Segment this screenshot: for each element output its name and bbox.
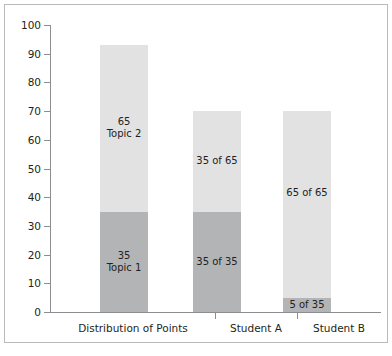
bar-segment-value-topic2: 65 (118, 116, 131, 127)
x-category-label-distribution-of-points: Distribution of Points (51, 322, 215, 334)
y-tick-label-10: 10 (1, 278, 41, 288)
y-tick-label-50: 50 (1, 164, 41, 174)
bar-segment-label-student-a-topic2: 35 of 65 (171, 155, 263, 167)
bar-segment-label-topic2: 65 Topic 2 (78, 116, 170, 140)
y-tick-10 (44, 283, 50, 284)
y-tick-label-0: 0 (1, 307, 41, 317)
x-category-label-student-b: Student B (297, 322, 381, 334)
y-tick-label-100-wrap: 100 (0, 20, 41, 30)
bar-segment-student-a-topic2[interactable]: 35 of 65 (193, 111, 241, 212)
y-tick-label-30-wrap: 30 (0, 221, 41, 231)
figure: 100 90 80 70 60 50 40 30 20 10 0 Distrib… (0, 0, 392, 356)
y-tick-50 (44, 169, 50, 170)
y-tick-30 (44, 226, 50, 227)
y-tick-label-70-wrap: 70 (0, 106, 41, 116)
x-category-label-student-a: Student A (215, 322, 297, 334)
y-tick-label-0-wrap: 0 (0, 307, 41, 317)
y-tick-100 (44, 25, 50, 26)
bar-student-a[interactable]: 35 of 35 35 of 65 (193, 111, 241, 312)
bar-segment-value-topic1: 35 (118, 250, 131, 261)
y-tick-label-40: 40 (1, 192, 41, 202)
bar-segment-student-b-topic2[interactable]: 65 of 65 (283, 111, 331, 298)
bar-student-b[interactable]: 5 of 35 65 of 65 (283, 111, 331, 312)
y-tick-label-100: 100 (1, 20, 41, 30)
figure-caption (5, 348, 387, 356)
y-tick-label-90-wrap: 90 (0, 49, 41, 59)
bar-segment-student-b-topic1[interactable]: 5 of 35 (283, 298, 331, 312)
bar-segment-name-topic2: Topic 2 (78, 128, 170, 140)
plot-area: 35 Topic 1 65 Topic 2 35 of 35 35 of 65 (51, 25, 381, 312)
bar-segment-label-student-b-topic1: 5 of 35 (261, 299, 353, 311)
y-tick-label-60: 60 (1, 135, 41, 145)
bar-segment-topic1[interactable]: 35 Topic 1 (100, 212, 148, 313)
y-tick-label-80-wrap: 80 (0, 77, 41, 87)
y-tick-label-20: 20 (1, 250, 41, 260)
y-tick-0 (44, 312, 50, 313)
bar-segment-label-student-b-topic2: 65 of 65 (261, 187, 353, 199)
y-tick-40 (44, 197, 50, 198)
y-tick-label-50-wrap: 50 (0, 164, 41, 174)
y-tick-20 (44, 255, 50, 256)
y-tick-70 (44, 111, 50, 112)
y-tick-label-40-wrap: 40 (0, 192, 41, 202)
y-tick-90 (44, 54, 50, 55)
y-tick-label-80: 80 (1, 77, 41, 87)
y-tick-label-10-wrap: 10 (0, 278, 41, 288)
y-tick-label-90: 90 (1, 49, 41, 59)
y-tick-label-30: 30 (1, 221, 41, 231)
x-axis-separator-1 (215, 313, 216, 319)
bar-segment-label-student-a-topic1: 35 of 35 (171, 256, 263, 268)
y-tick-label-20-wrap: 20 (0, 250, 41, 260)
y-tick-label-60-wrap: 60 (0, 135, 41, 145)
y-tick-80 (44, 82, 50, 83)
bar-segment-topic2[interactable]: 65 Topic 2 (100, 45, 148, 211)
bar-distribution-of-points[interactable]: 35 Topic 1 65 Topic 2 (100, 45, 148, 312)
y-tick-label-70: 70 (1, 106, 41, 116)
bar-segment-name-topic1: Topic 1 (78, 262, 170, 274)
x-axis-separator-2 (297, 313, 298, 319)
bar-segment-student-a-topic1[interactable]: 35 of 35 (193, 212, 241, 313)
bar-segment-label-topic1: 35 Topic 1 (78, 250, 170, 274)
y-tick-60 (44, 140, 50, 141)
